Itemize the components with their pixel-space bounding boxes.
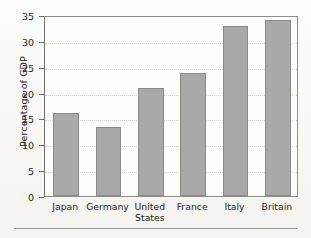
x-axis-category-label: Japan: [52, 202, 78, 213]
x-axis-category-label: United States: [135, 202, 166, 223]
bar: [265, 20, 290, 196]
y-axis-tick-label: 10: [8, 140, 34, 151]
bar: [53, 113, 78, 196]
x-axis-category-label: Britain: [262, 202, 293, 213]
gridline: [45, 146, 297, 147]
x-axis-category-label: Italy: [224, 202, 244, 213]
page-divider-rule: [14, 228, 297, 229]
bar: [96, 127, 121, 196]
x-axis-category-label: Germany: [86, 202, 129, 213]
bar: [223, 26, 248, 196]
plot-area: [44, 16, 298, 197]
bar-chart-figure: Percentage of GDP 05101520253035 JapanGe…: [0, 0, 311, 238]
y-axis-tick-label: 20: [8, 88, 34, 99]
bar: [180, 73, 205, 196]
x-axis-category-label: France: [177, 202, 208, 213]
gridline: [45, 95, 297, 96]
gridline: [45, 172, 297, 173]
bar: [138, 88, 163, 196]
gridline: [45, 120, 297, 121]
y-axis-tick-label: 0: [8, 192, 34, 203]
gridline: [45, 43, 297, 44]
y-axis-tick-label: 25: [8, 62, 34, 73]
y-axis-tick-label: 30: [8, 36, 34, 47]
y-axis-tick-label: 5: [8, 166, 34, 177]
y-axis-tick: [39, 197, 44, 198]
y-axis-tick-label: 35: [8, 11, 34, 22]
gridline: [45, 69, 297, 70]
y-axis-tick-label: 15: [8, 114, 34, 125]
